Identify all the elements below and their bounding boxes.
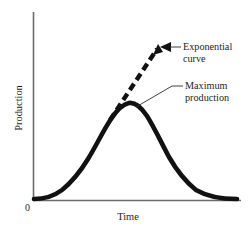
chart-svg: Exponential curve Maximum production 0 T… bbox=[0, 0, 250, 231]
x-axis-label: Time bbox=[117, 211, 139, 222]
production-curve-figure: Exponential curve Maximum production 0 T… bbox=[0, 0, 250, 231]
maximum-production-label-line2: production bbox=[185, 92, 229, 103]
origin-label: 0 bbox=[25, 202, 30, 213]
maximum-production-label-line1: Maximum bbox=[185, 80, 228, 91]
exponential-curve-label-line1: Exponential bbox=[183, 41, 232, 52]
y-axis-label: Production bbox=[13, 84, 24, 130]
exponential-curve-label-line2: curve bbox=[183, 53, 206, 64]
